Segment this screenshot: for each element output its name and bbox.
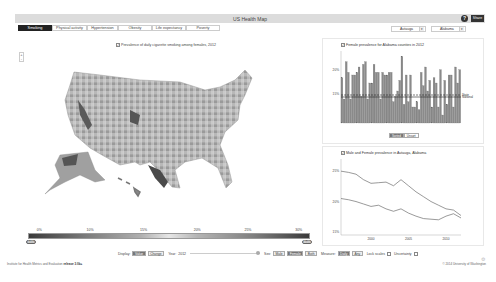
app-header: US Health Map ? Share xyxy=(15,14,485,23)
svg-text:National: National xyxy=(462,95,473,99)
footer-copyright: © 2014 University of Washington xyxy=(442,262,486,266)
tab-physical-activity[interactable]: Physical activity xyxy=(52,25,87,31)
sex-both-button[interactable]: Both xyxy=(305,251,317,256)
svg-text:25%: 25% xyxy=(333,169,340,173)
year-value: 2012 xyxy=(178,252,186,256)
display-change-button[interactable]: Change xyxy=(148,251,165,256)
lock-scales-checkbox[interactable] xyxy=(387,252,391,256)
topic-tabs: Smoking Physical activity Hypertension O… xyxy=(18,25,220,31)
legend-max-handle[interactable]: 30.0% xyxy=(302,240,312,244)
app-title: US Health Map xyxy=(15,16,485,22)
uncertainty-checkbox[interactable] xyxy=(414,252,418,256)
help-icon[interactable]: ? xyxy=(461,15,468,22)
checkbox-icon[interactable]: ✓ xyxy=(116,43,120,47)
svg-text:2000: 2000 xyxy=(367,237,374,241)
sort-toggle: Sorted Unsort xyxy=(389,133,419,138)
measure-daily-button[interactable]: Daily xyxy=(338,251,350,256)
color-legend: 0% 10% 15% 20% 25% 30% 0.0% 30.0% xyxy=(28,228,310,239)
chevron-down-icon: ▾ xyxy=(459,27,464,31)
county-bar-chart[interactable]: 20%15%StateNational xyxy=(323,47,483,137)
hawaii xyxy=(118,178,140,196)
zoom-out-button[interactable]: - xyxy=(20,57,23,61)
map-title: ✓Prevalence of daily cigarette smoking a… xyxy=(116,43,216,47)
sorted-button[interactable]: Sorted xyxy=(389,133,404,138)
svg-text:15%: 15% xyxy=(333,92,340,96)
trend-line-chart[interactable]: 15%20%25%200020052010 xyxy=(323,155,483,247)
trend-line-chart-panel: ✓Male and Female prevalence in Autauga, … xyxy=(322,146,484,246)
footer-credit: Institute for Health Metrics and Evaluat… xyxy=(7,262,82,266)
share-button[interactable]: Share xyxy=(471,15,484,22)
release-link[interactable]: release 3.0b+ xyxy=(63,262,82,266)
map-controls: Display: Value Change Year: 2012 Sex: Ma… xyxy=(118,251,419,256)
svg-text:15%: 15% xyxy=(333,230,340,234)
tab-obesity[interactable]: Obesity xyxy=(118,25,152,31)
county-bar-chart-panel: ✓Female prevalence for Alabama counties … xyxy=(322,38,484,144)
uncertainty-label: Uncertainty xyxy=(394,252,412,256)
slider-knob[interactable] xyxy=(256,251,260,255)
year-slider[interactable] xyxy=(190,253,260,254)
legend-min-handle[interactable]: 0.0% xyxy=(26,240,36,244)
us-choropleth-map[interactable] xyxy=(40,70,280,220)
svg-text:2010: 2010 xyxy=(442,237,449,241)
sex-male-button[interactable]: Male xyxy=(273,251,285,256)
tab-life-expectancy[interactable]: Life expectancy xyxy=(152,25,186,31)
legend-gradient xyxy=(28,233,310,239)
svg-text:20%: 20% xyxy=(333,200,340,204)
lock-scales-label: Lock scales xyxy=(367,252,385,256)
state-select[interactable]: Alabama▾ xyxy=(431,26,466,32)
svg-text:2005: 2005 xyxy=(405,237,412,241)
map-zoom-control: + - xyxy=(19,52,24,62)
chevron-down-icon: ▾ xyxy=(419,27,424,31)
sex-female-button[interactable]: Female xyxy=(287,251,303,256)
display-value-button[interactable]: Value xyxy=(132,251,145,256)
county-select[interactable]: Autauga▾ xyxy=(391,26,426,32)
tab-poverty[interactable]: Poverty xyxy=(186,25,220,31)
unsort-button[interactable]: Unsort xyxy=(404,133,419,138)
measure-any-button[interactable]: Any xyxy=(352,251,363,256)
svg-text:20%: 20% xyxy=(333,68,340,72)
tab-smoking[interactable]: Smoking xyxy=(18,25,52,31)
tab-hypertension[interactable]: Hypertension xyxy=(87,25,118,31)
